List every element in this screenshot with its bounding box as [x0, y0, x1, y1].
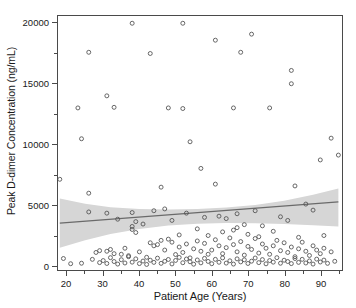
y-axis-tick-label: 15000 [23, 78, 49, 89]
data-point [184, 242, 188, 246]
data-point [275, 238, 279, 242]
data-point [300, 240, 304, 244]
data-point [297, 235, 301, 239]
data-point [108, 247, 112, 251]
data-point [253, 237, 257, 241]
x-axis-minor-tick [194, 271, 195, 274]
x-axis-tick-label: 50 [170, 278, 181, 289]
y-axis-tick-label: 5000 [28, 200, 49, 211]
data-point [134, 257, 138, 261]
x-axis-tick [139, 271, 140, 276]
data-point [311, 262, 315, 266]
data-point [105, 261, 109, 265]
data-point [329, 136, 333, 140]
data-point [307, 259, 311, 263]
data-point [307, 253, 311, 257]
data-point [80, 261, 84, 265]
data-point [289, 262, 293, 266]
data-point [188, 140, 192, 144]
data-point [315, 248, 319, 252]
data-point [224, 246, 228, 250]
data-point [170, 262, 174, 266]
data-point [279, 249, 283, 253]
data-point [166, 257, 170, 261]
data-point [311, 244, 315, 248]
data-point [250, 32, 254, 36]
data-point [192, 247, 196, 251]
data-point [112, 260, 116, 264]
data-point [199, 249, 203, 253]
data-point [156, 256, 160, 260]
data-point [318, 158, 322, 162]
data-point [181, 250, 185, 254]
data-point [257, 251, 261, 255]
x-axis-tick-label: 30 [97, 278, 108, 289]
data-point [322, 234, 326, 238]
y-axis-tick-label: 0 [44, 261, 49, 272]
data-point [199, 261, 203, 265]
data-point [217, 244, 221, 248]
data-point [199, 166, 203, 170]
data-point [264, 262, 268, 266]
x-axis-tick-label: 90 [316, 278, 327, 289]
x-axis-tick-label: 70 [243, 278, 254, 289]
data-point [213, 257, 217, 261]
data-point [235, 257, 239, 261]
data-point [213, 238, 217, 242]
data-point [76, 106, 80, 110]
data-point [271, 229, 275, 233]
data-point [90, 257, 94, 261]
data-point [181, 21, 185, 25]
data-point [87, 50, 91, 54]
data-point [322, 246, 326, 250]
x-axis-title: Patient Age (Years) [57, 290, 343, 302]
data-point [333, 259, 337, 263]
data-point [174, 258, 178, 262]
data-point [239, 240, 243, 244]
data-point [195, 258, 199, 262]
data-point [170, 240, 174, 244]
plot-canvas [58, 16, 342, 270]
x-axis-tick [212, 271, 213, 276]
data-point [246, 232, 250, 236]
x-axis-minor-tick [84, 271, 85, 274]
data-point [134, 231, 138, 235]
data-point [80, 137, 84, 141]
data-point [177, 233, 181, 237]
data-point [221, 230, 225, 234]
data-point [123, 261, 127, 265]
data-point [195, 239, 199, 243]
data-point [206, 234, 210, 238]
data-point [210, 262, 214, 266]
data-point [203, 256, 207, 260]
x-axis-minor-tick [121, 271, 122, 274]
data-point [293, 184, 297, 188]
data-point [177, 255, 181, 259]
data-point [322, 258, 326, 262]
data-point [137, 262, 141, 266]
data-point [235, 226, 239, 230]
data-point [235, 250, 239, 254]
x-axis-tick [248, 271, 249, 276]
data-point [336, 153, 340, 157]
data-point [260, 224, 264, 228]
x-axis-minor-tick [339, 271, 340, 274]
data-point [253, 256, 257, 260]
plot-svg [58, 16, 342, 270]
data-point [108, 256, 112, 260]
data-point [130, 260, 134, 264]
data-point [228, 236, 232, 240]
data-point [141, 259, 145, 263]
data-point [304, 249, 308, 253]
y-axis-tick-label: 20000 [23, 17, 49, 28]
data-point [119, 252, 123, 256]
data-point [181, 261, 185, 265]
data-point [217, 260, 221, 264]
data-point [98, 249, 102, 253]
data-point [221, 256, 225, 260]
confidence-band-area [60, 188, 339, 247]
data-point [297, 260, 301, 264]
data-point [221, 252, 225, 256]
data-point [282, 241, 286, 245]
data-point [163, 248, 167, 252]
